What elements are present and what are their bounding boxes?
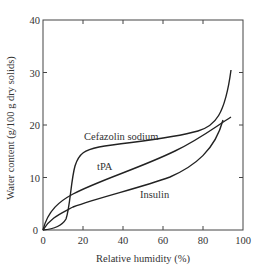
cefazolin-sodium-curve: [43, 70, 231, 230]
x-tick-label: 0: [40, 235, 45, 246]
x-tick-label: 60: [158, 235, 169, 246]
y-tick-label: 30: [30, 68, 41, 79]
x-tick-label: 80: [198, 235, 209, 246]
x-tick-label: 20: [78, 235, 89, 246]
y-tick-label: 40: [30, 15, 41, 26]
y-tick-label: 20: [30, 120, 41, 131]
x-tick-label: 100: [235, 235, 251, 246]
insulin-label: Insulin: [140, 189, 170, 200]
y-tick-label: 0: [33, 225, 38, 236]
y-axis-title: Water content (g/100 g dry solids): [5, 56, 17, 200]
x-axis-title: Relative humidity (%): [96, 253, 190, 265]
tpa-label: tPA: [97, 161, 113, 172]
sorption-isotherm-chart: 40 30 20 10 0 0 20 40 60 80 100 Relative…: [0, 0, 260, 269]
y-tick-label: 10: [30, 173, 41, 184]
x-tick-label: 40: [118, 235, 129, 246]
cefazolin-sodium-label: Cefazolin sodium: [84, 131, 158, 142]
y-axis: [43, 73, 243, 178]
